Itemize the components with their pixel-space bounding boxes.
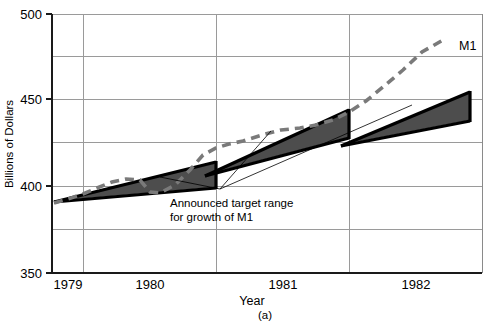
y-tick-label-500: 500 [20,7,42,22]
y-tick-label-350: 350 [20,266,42,281]
annotation-line-1: Announced target range [170,197,293,209]
figure-panel: 500 450 400 350 1979 1980 1981 1982 Bill… [0,0,497,322]
x-tick-label-1979: 1979 [54,277,83,292]
m1-series-label: M1 [459,39,476,53]
plot-background [52,14,482,273]
y-tick-label-400: 400 [20,179,42,194]
y-axis-title: Billions of Dollars [3,100,15,188]
y-tick-marks [46,14,52,273]
x-tick-label-1981: 1981 [269,277,298,292]
x-axis-title: Year [239,294,264,308]
y-tick-label-450: 450 [20,92,42,107]
x-tick-label-1982: 1982 [402,277,431,292]
figure-caption: (a) [258,309,272,321]
annotation-line-2: for growth of M1 [170,211,253,223]
x-tick-label-1980: 1980 [136,277,165,292]
money-supply-chart: 500 450 400 350 1979 1980 1981 1982 Bill… [0,0,497,322]
